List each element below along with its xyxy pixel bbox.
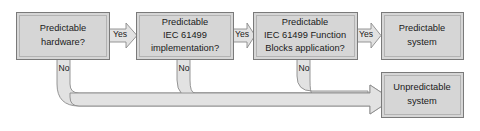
node-predictable-implementation-line2: IEC 61499 [163,30,207,40]
node-predictable-system-line1: Predictable [399,23,446,33]
node-predictable-function-blocks[interactable]: Predictable IEC 61499 Function Blocks ap… [254,13,358,60]
edge-label-no-3: No [299,63,310,73]
node-predictable-implementation-line1: Predictable [162,17,209,27]
node-predictable-hardware[interactable]: Predictable hardware? [17,13,110,60]
flowchart-diagram: Predictable hardware? Predictable IEC 61… [0,0,480,131]
node-predictable-implementation[interactable]: Predictable IEC 61499 implementation? [137,13,234,60]
node-unpredictable-system-line1: Unpredictable [393,82,450,92]
flowchart-canvas: Predictable hardware? Predictable IEC 61… [0,0,480,131]
node-predictable-hardware-line2: hardware? [41,37,85,47]
node-predictable-function-blocks-line2: IEC 61499 Function [264,30,346,40]
node-predictable-implementation-line3: implementation? [151,43,219,53]
node-predictable-system[interactable]: Predictable system [382,13,464,60]
node-predictable-system-line2: system [407,37,437,47]
node-unpredictable-system-line2: system [407,96,437,106]
edge-label-no-1: No [59,63,70,73]
node-predictable-function-blocks-line3: Blocks application? [265,43,345,53]
merged-trunk-path [70,85,392,114]
merged-no-trunk-arrow [70,85,392,114]
edge-label-yes-1: Yes [113,29,127,39]
edge-label-no-2: No [179,63,190,73]
node-predictable-hardware-rect[interactable] [17,13,110,60]
node-unpredictable-system-rect[interactable] [382,73,464,118]
node-predictable-system-rect[interactable] [382,13,464,60]
node-predictable-function-blocks-line1: Predictable [282,17,329,27]
node-predictable-hardware-line1: Predictable [40,23,87,33]
node-unpredictable-system[interactable]: Unpredictable system [382,73,464,118]
edge-label-yes-2: Yes [235,29,249,39]
edge-label-yes-3: Yes [359,29,373,39]
